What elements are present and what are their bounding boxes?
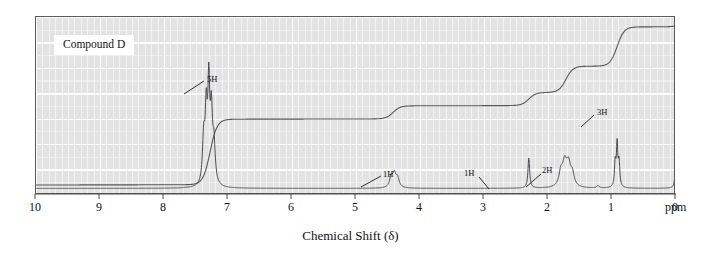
x-axis: 109876543210 ppm [35, 194, 675, 195]
x-tick-7: 7 [224, 200, 230, 215]
axis-line-and-ticks [35, 191, 683, 201]
x-axis-unit: ppm [665, 200, 686, 215]
x-tick-10: 10 [29, 200, 41, 215]
spectrum-plot-area: Compound D 5H 1H 1H 2H 3H [35, 16, 675, 194]
x-tick-6: 6 [288, 200, 294, 215]
nmr-figure: Compound D 5H 1H 1H 2H 3H 109876543210 p… [0, 0, 701, 256]
x-axis-title: Chemical Shift (δ) [0, 228, 701, 244]
x-tick-8: 8 [160, 200, 166, 215]
annotation-1h-2-3: 1H [464, 169, 474, 178]
x-tick-5: 5 [352, 200, 358, 215]
compound-label: Compound D [54, 35, 134, 55]
annotation-3h: 3H [597, 108, 607, 117]
x-tick-9: 9 [96, 200, 102, 215]
x-tick-4: 4 [416, 200, 422, 215]
x-tick-3: 3 [480, 200, 486, 215]
annotation-5h: 5H [207, 75, 217, 84]
annotation-1h-4-4: 1H [383, 170, 393, 179]
x-tick-2: 2 [544, 200, 550, 215]
annotation-2h: 2H [542, 166, 552, 175]
x-tick-1: 1 [608, 200, 614, 215]
